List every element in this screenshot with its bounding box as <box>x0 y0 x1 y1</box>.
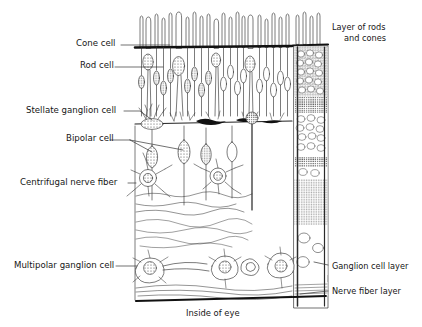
label-cone-cell: Cone cell <box>76 38 116 49</box>
retina-diagram <box>0 0 422 327</box>
figure-canvas: Cone cell Rod cell Stellate ganglion cel… <box>0 0 422 327</box>
label-line-1: Layer of rods <box>332 22 386 33</box>
label-bipolar-cell: Bipolar cell <box>66 133 114 144</box>
label-centrifugal-nerve-fiber: Centrifugal nerve fiber <box>20 177 117 188</box>
label-ganglion-cell-layer: Ganglion cell layer <box>332 261 408 272</box>
label-multipolar-ganglion-cell: Multipolar ganglion cell <box>14 260 114 271</box>
label-layer-of-rods-and-cones: Layer of rods and cones <box>332 22 386 43</box>
caption-inside-of-eye: Inside of eye <box>186 308 240 318</box>
label-line-2: and cones <box>332 33 386 44</box>
label-nerve-fiber-layer: Nerve fiber layer <box>332 286 401 297</box>
label-rod-cell: Rod cell <box>80 60 114 71</box>
label-stellate-ganglion-cell: Stellate ganglion cell <box>26 105 116 116</box>
